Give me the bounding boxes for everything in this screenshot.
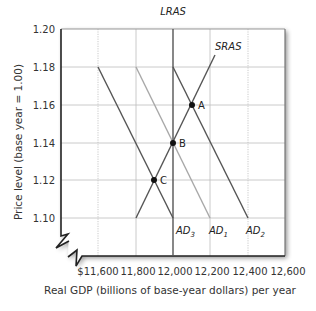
svg-text:12,200: 12,200 xyxy=(195,266,230,277)
svg-text:12,600: 12,600 xyxy=(271,266,306,277)
svg-text:1.10: 1.10 xyxy=(33,213,55,224)
point-c-label: C xyxy=(160,175,167,186)
y-tick-labels: 1.20 1.18 1.16 1.14 1.12 1.10 xyxy=(33,24,55,224)
svg-text:1.12: 1.12 xyxy=(33,175,55,186)
point-a-marker xyxy=(189,102,195,108)
svg-text:12,000: 12,000 xyxy=(158,266,193,277)
point-b-marker xyxy=(170,140,176,146)
svg-text:1.18: 1.18 xyxy=(33,62,55,73)
sras-label: SRAS xyxy=(215,41,242,52)
svg-text:11,800: 11,800 xyxy=(121,266,156,277)
svg-text:$11,600: $11,600 xyxy=(77,266,118,277)
svg-text:12,400: 12,400 xyxy=(233,266,268,277)
chart-svg: A B C SRAS AD3 AD1 AD2 1.20 1.18 1.16 1.… xyxy=(0,0,316,311)
svg-text:1.16: 1.16 xyxy=(33,100,55,111)
point-a-label: A xyxy=(198,100,205,111)
svg-text:1.14: 1.14 xyxy=(33,138,55,149)
point-b-label: B xyxy=(179,138,186,149)
point-c-marker xyxy=(151,177,157,183)
svg-text:1.20: 1.20 xyxy=(33,24,55,35)
x-tick-labels: $11,600 11,800 12,000 12,200 12,400 12,6… xyxy=(77,266,305,277)
